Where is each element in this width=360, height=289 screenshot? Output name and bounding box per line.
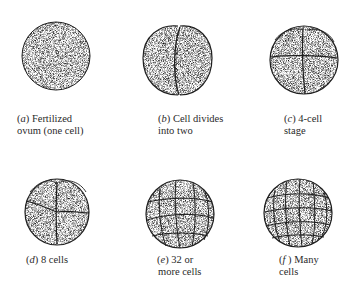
stage-e-32-cells [146,180,214,248]
label-stage-f: (f ) Many cells [279,254,319,278]
stage-a-line2: ovum (one cell) [17,125,83,137]
stage-b-line1: Cell divides [173,113,223,124]
stage-e-letter: e [161,254,166,265]
stage-b-two-cells [143,26,212,95]
label-stage-a: (a) Fertilized ovum (one cell) [17,113,83,137]
stage-c-letter: c [288,113,293,124]
stage-f-many-cells [264,179,332,247]
stage-d-eight-cells [25,179,89,245]
stage-d-line1: 8 cells [41,254,68,265]
stage-c-four-cells [270,26,338,94]
stage-e-line1: 32 or [171,254,193,265]
stage-a-letter: a [21,113,26,124]
stage-c-line2: stage [284,125,322,137]
stage-a-line1: Fertilized [32,113,72,124]
stage-e-line2: more cells [157,266,201,278]
stage-b-letter: b [162,113,167,124]
label-stage-b: (b) Cell divides into two [158,113,223,137]
label-stage-c: (c) 4-cell stage [284,113,322,137]
stage-f-line1: Many [294,254,319,265]
stage-f-line2: cells [279,266,319,278]
stage-b-line2: into two [158,125,223,137]
cleavage-diagram [0,0,360,289]
stage-c-line1: 4-cell [298,113,322,124]
label-stage-e: (e) 32 or more cells [157,254,201,278]
stage-a-ovum [22,22,90,90]
stage-d-letter: d [30,254,35,265]
label-stage-d: (d) 8 cells [26,254,68,266]
stage-f-letter: f [283,254,286,265]
